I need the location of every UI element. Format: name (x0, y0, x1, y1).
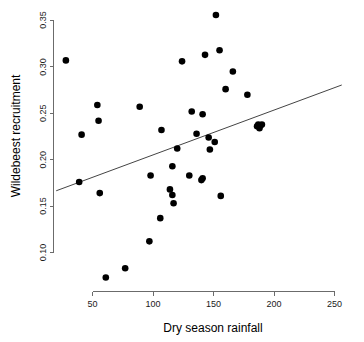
data-point (217, 193, 224, 200)
y-axis-tick-labels: 0.35 0.30 0.25 0.20 0.15 0.10 (38, 11, 48, 261)
x-axis: 50 100 150 200 250 Dry season rainfall (87, 292, 342, 336)
data-points-group (63, 12, 266, 281)
y-tick-label-4: 0.30 (38, 58, 48, 76)
data-point (96, 190, 103, 197)
x-tick-label-2: 150 (206, 299, 221, 309)
y-tick-label-1: 0.15 (38, 197, 48, 215)
data-point (103, 274, 110, 281)
data-point (188, 108, 195, 115)
data-point (94, 102, 101, 109)
data-point (95, 117, 102, 124)
data-point (169, 192, 176, 199)
data-point (199, 111, 206, 118)
data-point (157, 215, 164, 222)
y-tick-label-3: 0.25 (38, 105, 48, 123)
data-point (199, 175, 206, 182)
y-tick-label-5: 0.35 (38, 11, 48, 29)
data-point (63, 57, 70, 64)
data-point (122, 265, 129, 272)
y-axis-title: Wildebeest recruitment (9, 74, 23, 197)
data-point (136, 104, 143, 111)
data-point (213, 12, 220, 19)
y-axis-line (50, 21, 54, 253)
data-point (76, 179, 83, 186)
data-point (205, 134, 212, 141)
data-point (207, 146, 214, 153)
data-point (222, 86, 229, 93)
data-point (158, 127, 165, 134)
x-axis-ticks (93, 292, 335, 296)
data-point (179, 58, 186, 65)
data-point (147, 172, 154, 179)
x-axis-tick-labels: 50 100 150 200 250 (87, 299, 342, 309)
data-point (216, 47, 223, 54)
data-point (230, 68, 237, 75)
data-point (78, 131, 85, 138)
data-point (259, 121, 266, 128)
y-axis-ticks (50, 21, 54, 253)
y-tick-label-2: 0.20 (38, 151, 48, 169)
data-point (186, 172, 193, 179)
x-tick-label-4: 250 (327, 299, 342, 309)
data-point (174, 145, 181, 152)
plot-canvas: 0.35 0.30 0.25 0.20 0.15 0.10 Wildebeest… (0, 0, 364, 342)
x-axis-title: Dry season rainfall (163, 321, 262, 335)
y-tick-label-0: 0.10 (38, 244, 48, 262)
data-point (146, 238, 153, 245)
data-point (169, 163, 176, 170)
data-point (211, 139, 218, 146)
x-tick-label-0: 50 (87, 299, 97, 309)
x-tick-label-3: 200 (266, 299, 281, 309)
x-tick-label-1: 100 (145, 299, 160, 309)
data-point (202, 52, 209, 59)
y-axis: 0.35 0.30 0.25 0.20 0.15 0.10 Wildebeest… (9, 11, 53, 261)
regression-trend-line (56, 85, 342, 191)
data-point (244, 91, 251, 98)
scatter-plot-figure: 0.35 0.30 0.25 0.20 0.15 0.10 Wildebeest… (0, 0, 364, 342)
data-point (170, 200, 177, 207)
data-point (193, 130, 200, 137)
